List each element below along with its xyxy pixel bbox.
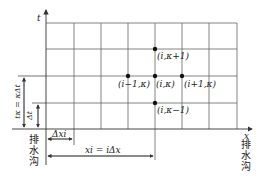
node-label-i-plus-1-k: (i+1,κ) — [184, 80, 216, 89]
node-label-i-minus-1-k: (i−1,κ) — [118, 80, 150, 89]
grid-lines — [46, 23, 237, 160]
tk-dimension-label: tκ = κΔt — [13, 77, 22, 127]
node-i-plus-1-k — [180, 74, 184, 78]
t-axis-label: t — [37, 14, 41, 23]
dxi-dimension-label: Δxi — [52, 130, 66, 139]
node-label-i-k-minus-1: (i,κ−1) — [157, 106, 189, 115]
node-i-minus-1-k — [126, 74, 130, 78]
node-i-k — [153, 74, 157, 78]
node-label-i-k: (i,κ) — [156, 80, 175, 89]
xi-dimension-label: xi = iΔx — [85, 146, 121, 155]
node-label-i-k-plus-1: (i,κ+1) — [157, 52, 189, 61]
dt-dimension-label: Δt — [25, 106, 34, 126]
